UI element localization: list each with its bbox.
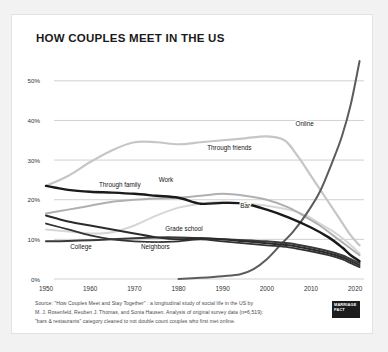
series-label-text: Grade school	[165, 225, 202, 232]
series-label-text: College	[70, 243, 92, 251]
x-axis-tick-label: 2020	[348, 285, 363, 292]
series-label-text: Through friends	[207, 144, 251, 152]
series-line-neighbors	[46, 224, 360, 268]
series-label-neighbors: NeighborsNeighbors	[141, 243, 170, 251]
y-axis-tick-label: 0%	[31, 276, 40, 283]
series-label-through-friends: Through friendsThrough friends	[207, 144, 251, 152]
marriage-pact-logo: MARRIAGE PACT	[332, 301, 360, 318]
series-label-bar: BarBar	[240, 202, 250, 209]
x-axis-tick-label: 1950	[39, 285, 54, 292]
x-axis-tick-label: 1960	[83, 285, 98, 292]
x-axis-tick-label: 1990	[216, 285, 231, 292]
series-label-text: Through family	[99, 181, 141, 189]
series-label-online: OnlineOnline	[296, 120, 315, 127]
series-label-text: Bar	[240, 202, 250, 209]
chart-plot-area: 0%10%20%30%40%50%19501960197019801990200…	[12, 15, 374, 335]
series-label-text: Online	[296, 120, 315, 127]
y-axis-tick-label: 50%	[28, 77, 41, 84]
y-axis-tick-label: 40%	[28, 117, 41, 124]
y-axis-tick-label: 20%	[28, 196, 41, 203]
chart-card: HOW COUPLES MEET IN THE US 0%10%20%30%40…	[11, 14, 373, 334]
series-label-college: CollegeCollege	[70, 243, 92, 251]
y-axis-tick-label: 30%	[28, 157, 41, 164]
logo-line-2: PACT	[334, 308, 360, 313]
x-axis-tick-label: 1980	[171, 285, 186, 292]
source-line-3: "bars & restaurants" category cleaned to…	[35, 317, 287, 326]
y-axis-tick-label: 10%	[28, 236, 41, 243]
x-axis-tick-label: 2010	[304, 285, 319, 292]
source-line-1: Source: "How Couples Meet and Stay Toget…	[35, 299, 287, 308]
x-axis-tick-label: 1970	[127, 285, 142, 292]
line-chart-svg: 0%10%20%30%40%50%19501960197019801990200…	[12, 15, 374, 335]
source-line-2: M. J. Rosenfeld, Reuben J. Thomas, and S…	[35, 308, 287, 317]
source-note: Source: "How Couples Meet and Stay Toget…	[35, 299, 287, 326]
series-label-text: Work	[159, 176, 174, 183]
series-label-work: WorkWork	[159, 176, 174, 183]
series-label-through-family: Through familyThrough family	[99, 181, 141, 189]
series-label-grade-school: Grade schoolGrade school	[165, 225, 202, 232]
series-label-text: Neighbors	[141, 243, 170, 251]
x-axis-tick-label: 2000	[260, 285, 275, 292]
